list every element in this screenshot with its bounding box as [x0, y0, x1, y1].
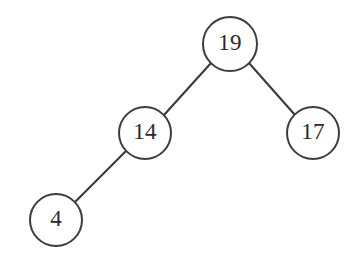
tree-node-left[interactable]: 14 [119, 107, 171, 159]
node-label: 14 [133, 119, 157, 144]
edge-19-14 [164, 63, 211, 115]
edge-19-17 [249, 63, 295, 115]
tree-node-root[interactable]: 19 [203, 17, 257, 71]
tree-canvas: 19 14 17 4 [0, 0, 363, 265]
tree-node-leaf[interactable]: 4 [30, 194, 82, 246]
tree-node-right[interactable]: 17 [287, 107, 339, 159]
node-group: 19 14 17 4 [30, 17, 339, 246]
node-label: 19 [218, 30, 241, 55]
node-label: 17 [301, 119, 324, 144]
node-label: 4 [50, 206, 62, 231]
edge-group [75, 63, 295, 202]
binary-tree-figure: 19 14 17 4 [0, 0, 363, 265]
edge-14-4 [75, 151, 126, 202]
